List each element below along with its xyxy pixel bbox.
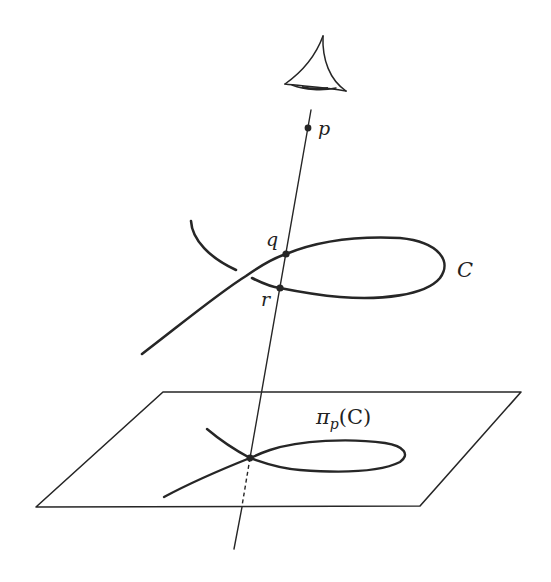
point-r <box>276 284 283 291</box>
point-q <box>282 250 289 257</box>
point-p <box>305 125 312 132</box>
eye-icon <box>285 36 346 91</box>
label-q: q <box>266 228 278 250</box>
projection-line <box>234 110 311 549</box>
label-r: r <box>261 288 272 310</box>
curve-c <box>142 221 444 354</box>
projection-diagram: p q r C πp(C) <box>0 0 551 582</box>
label-p: p <box>318 117 330 139</box>
node-point <box>247 455 254 462</box>
label-projection: πp(C) <box>315 405 371 432</box>
plane <box>36 392 521 507</box>
projected-curve <box>164 429 405 497</box>
label-c: C <box>457 258 473 282</box>
